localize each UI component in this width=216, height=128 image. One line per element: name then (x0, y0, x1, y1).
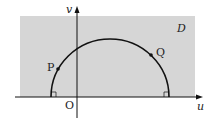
diagram-graphic (0, 0, 216, 128)
point-p-label: P (47, 62, 54, 73)
origin-label: O (65, 100, 74, 111)
u-axis-label: u (197, 101, 204, 112)
region-d (20, 16, 195, 97)
point-q (149, 53, 153, 57)
diagram: v D P Q O u (0, 0, 216, 128)
point-q-label: Q (156, 47, 165, 58)
u-axis-arrow-icon (196, 95, 203, 100)
v-axis-label: v (66, 4, 72, 15)
point-p (56, 67, 60, 71)
region-label: D (177, 23, 186, 34)
v-axis-arrow-icon (75, 6, 80, 13)
